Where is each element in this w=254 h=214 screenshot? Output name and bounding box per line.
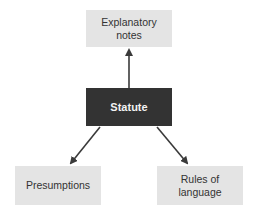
node-statute: Statute bbox=[86, 88, 172, 126]
node-label-line2: notes bbox=[116, 29, 142, 42]
arrow-to-rules-of-language bbox=[157, 127, 187, 163]
node-label-line2: language bbox=[178, 186, 221, 199]
node-rules-of-language: Rules of language bbox=[157, 166, 243, 205]
node-label: Presumptions bbox=[26, 179, 90, 192]
node-label-line1: Rules of bbox=[181, 173, 220, 186]
arrow-to-presumptions bbox=[71, 127, 100, 163]
node-label: Statute bbox=[110, 101, 147, 114]
node-explanatory-notes: Explanatory notes bbox=[86, 10, 172, 47]
node-label-line1: Explanatory bbox=[101, 16, 156, 29]
node-presumptions: Presumptions bbox=[15, 166, 101, 205]
